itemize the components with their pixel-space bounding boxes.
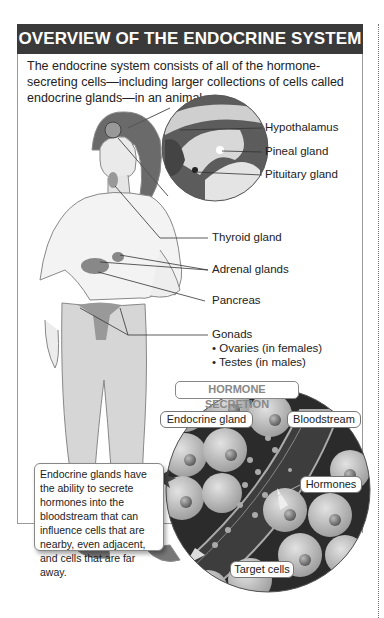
label-adrenal-glands: Adrenal glands bbox=[212, 263, 289, 275]
label-endocrine-gland: Endocrine gland bbox=[160, 411, 253, 428]
label-pancreas: Pancreas bbox=[212, 294, 261, 306]
label-bloodstream: Bloodstream bbox=[287, 411, 361, 428]
label-pituitary-gland: Pituitary gland bbox=[265, 168, 338, 180]
label-thyroid-gland: Thyroid gland bbox=[212, 231, 282, 243]
thyroid-organ bbox=[108, 172, 118, 188]
label-hypothalamus: Hypothalamus bbox=[265, 121, 339, 133]
brain-marker bbox=[105, 122, 121, 138]
pancreas-organ bbox=[81, 258, 109, 274]
label-ovaries: • Ovaries (in females) bbox=[212, 342, 322, 354]
adrenal-organ bbox=[112, 252, 124, 262]
endocrine-callout-box: Endocrine glands have the ability to sec… bbox=[34, 463, 164, 551]
label-pineal-gland: Pineal gland bbox=[265, 145, 328, 157]
label-target-cells: Target cells bbox=[230, 561, 294, 578]
label-gonads: Gonads bbox=[212, 328, 252, 340]
label-testes: • Testes (in males) bbox=[212, 356, 306, 368]
hormone-secretion-title: HORMONE SECRETION bbox=[175, 381, 299, 399]
label-hormones: Hormones bbox=[300, 476, 362, 493]
